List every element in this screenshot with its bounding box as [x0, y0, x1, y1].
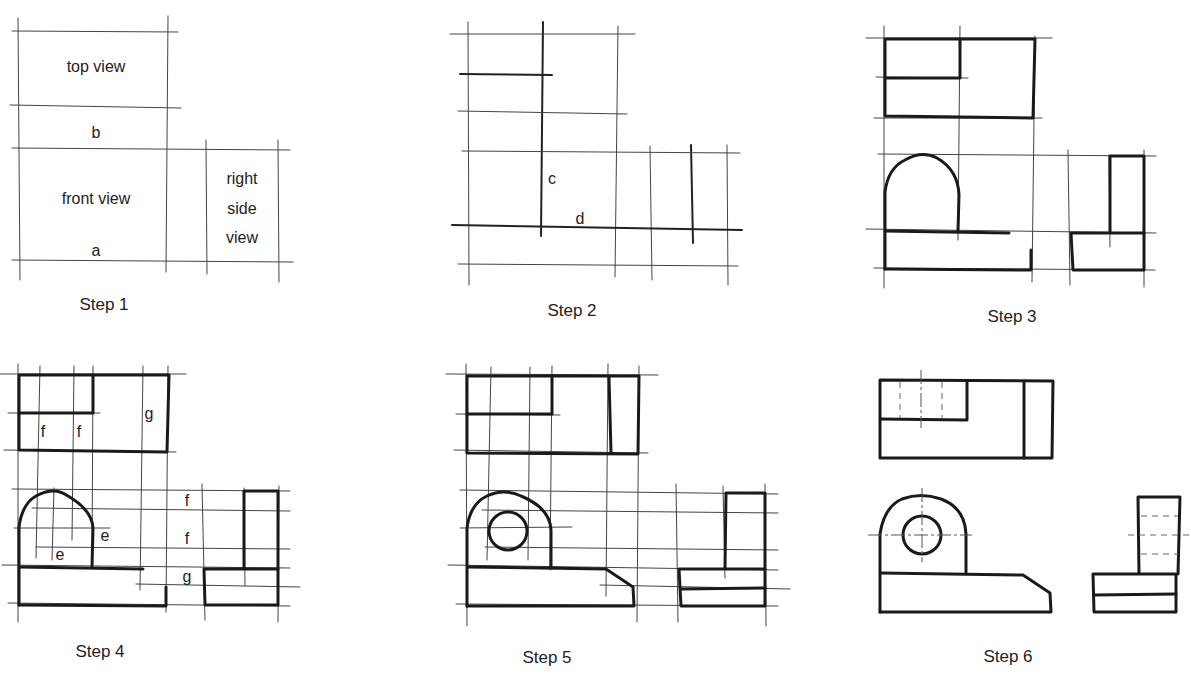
label-a: a [92, 242, 101, 259]
label-d: d [576, 210, 585, 227]
label-f-mid-2: f [185, 530, 190, 547]
top-view-label: top view [67, 58, 126, 75]
step-3-panel: Step 3 [866, 26, 1156, 326]
step-1-panel: top view b front view a right side view … [10, 16, 293, 314]
label-g-mid: g [183, 568, 192, 585]
label-g-top: g [145, 405, 154, 422]
step-3-caption: Step 3 [987, 307, 1036, 326]
front-view-label: front view [62, 190, 131, 207]
step-6-caption: Step 6 [983, 647, 1032, 666]
label-f-mid-1: f [185, 492, 190, 509]
right-side-view-label-3: view [226, 229, 258, 246]
label-f-top-2: f [77, 423, 82, 440]
step-5-panel: Step 5 [446, 364, 790, 667]
orthographic-steps-diagram: top view b front view a right side view … [0, 0, 1191, 680]
step-2-panel: c d Step 2 [450, 22, 742, 320]
step-4-panel: f f g e e f f g Step 4 [0, 364, 300, 661]
label-f-top-1: f [41, 423, 46, 440]
label-c: c [548, 170, 556, 187]
step-1-caption: Step 1 [79, 295, 128, 314]
step-4-caption: Step 4 [75, 642, 124, 661]
label-e-2: e [56, 546, 65, 563]
step-6-panel: Step 6 [868, 370, 1190, 666]
step-5-caption: Step 5 [522, 648, 571, 667]
label-e-1: e [101, 527, 110, 544]
step-2-caption: Step 2 [547, 301, 596, 320]
label-b: b [92, 124, 101, 141]
right-side-view-label-1: right [226, 170, 258, 187]
right-side-view-label-2: side [227, 200, 256, 217]
